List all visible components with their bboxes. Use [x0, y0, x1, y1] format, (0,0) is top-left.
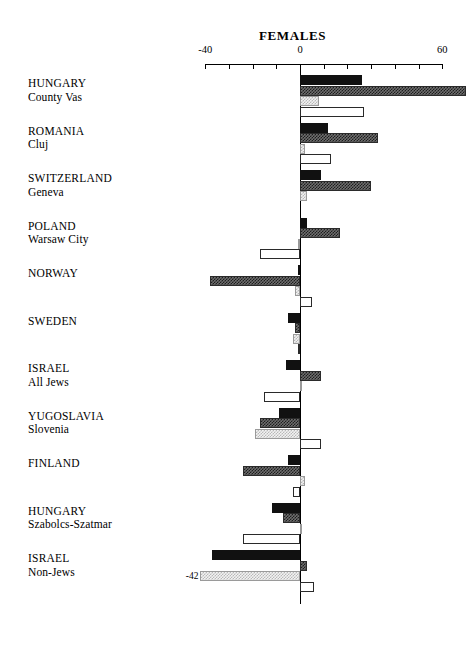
bar-dark	[300, 371, 321, 381]
category-label-line2: Warsaw City	[28, 233, 89, 247]
bar-light	[300, 144, 305, 154]
bar-white	[260, 249, 300, 259]
bar-solid	[300, 170, 321, 180]
x-axis-tick-label: 0	[297, 44, 302, 55]
bar-white	[300, 154, 331, 164]
x-axis-tick-label: -40	[198, 44, 212, 55]
bar-light	[293, 334, 300, 344]
x-axis-tick-label: 60	[437, 44, 448, 55]
category-label: HUNGARYCounty Vas	[28, 77, 86, 104]
category-label-line1: ISRAEL	[28, 552, 75, 566]
bar-solid	[300, 75, 362, 85]
bar-dark	[300, 133, 378, 143]
bar-group: FINLAND	[0, 455, 467, 503]
category-label: ISRAELNon-Jews	[28, 552, 75, 579]
bar-white	[300, 439, 321, 449]
category-label-line2: Cluj	[28, 138, 84, 152]
bar-dark	[300, 181, 371, 191]
category-label-line1: NORWAY	[28, 267, 78, 281]
bar-dark: 70	[300, 86, 466, 96]
bar-dark	[243, 466, 300, 476]
bar-light	[298, 239, 300, 249]
bar-light: -42	[200, 571, 300, 581]
x-axis-tick	[300, 64, 301, 69]
bar-group: NORWAY	[0, 265, 467, 313]
bar-group: SWITZERLANDGeneva	[0, 170, 467, 218]
bar-dark	[295, 323, 300, 333]
bar-value-label: -42	[186, 571, 199, 581]
category-label-line2: Geneva	[28, 186, 112, 200]
bar-light	[300, 191, 307, 201]
bar-white	[264, 392, 300, 402]
bar-group: ROMANIACluj	[0, 123, 467, 171]
bar-group: ISRAELAll Jews	[0, 360, 467, 408]
x-axis-tick	[229, 64, 230, 69]
x-axis-tick	[395, 64, 396, 69]
x-axis-tick	[253, 64, 254, 69]
category-label: POLANDWarsaw City	[28, 220, 89, 247]
bar-dark	[300, 561, 307, 571]
bar-white	[243, 534, 300, 544]
bar-group: SWEDEN	[0, 313, 467, 361]
category-label: SWEDEN	[28, 315, 77, 329]
bar-white	[300, 582, 314, 592]
bar-group: YUGOSLAVIASlovenia	[0, 408, 467, 456]
bar-light	[300, 524, 302, 534]
bar-light	[300, 381, 302, 391]
bar-group: ISRAELNon-Jews-42	[0, 550, 467, 598]
bar-dark	[210, 276, 300, 286]
bar-white	[293, 487, 300, 497]
category-label: YUGOSLAVIASlovenia	[28, 410, 104, 437]
bar-light	[300, 96, 319, 106]
x-axis-tick	[205, 64, 206, 69]
x-axis-tick	[419, 64, 420, 69]
bar-light	[295, 286, 300, 296]
category-label: SWITZERLANDGeneva	[28, 172, 112, 199]
category-label: ISRAELAll Jews	[28, 362, 69, 389]
bar-light	[255, 429, 300, 439]
bar-solid	[300, 218, 307, 228]
bar-solid	[288, 455, 300, 465]
category-label-line1: HUNGARY	[28, 77, 86, 91]
category-label-line1: ROMANIA	[28, 125, 84, 139]
bar-light	[300, 476, 305, 486]
plot-area: -40060 HUNGARYCounty Vas70ROMANIAClujSWI…	[0, 0, 467, 645]
category-label: FINLAND	[28, 457, 80, 471]
bar-dark	[300, 228, 340, 238]
category-label: ROMANIACluj	[28, 125, 84, 152]
bar-white	[300, 297, 312, 307]
bar-solid	[286, 360, 300, 370]
category-label-line1: ISRAEL	[28, 362, 69, 376]
x-axis-tick	[442, 64, 443, 69]
category-label-line1: POLAND	[28, 220, 89, 234]
x-axis-tick	[276, 64, 277, 69]
bar-white	[300, 107, 364, 117]
bar-group: HUNGARYCounty Vas70	[0, 75, 467, 123]
category-label-line1: YUGOSLAVIA	[28, 410, 104, 424]
bar-solid	[288, 313, 300, 323]
bar-dark	[283, 513, 300, 523]
category-label: NORWAY	[28, 267, 78, 281]
x-axis-tick	[324, 64, 325, 69]
bar-solid	[212, 550, 300, 560]
category-label-line2: County Vas	[28, 91, 86, 105]
x-axis-tick	[371, 64, 372, 69]
bar-solid	[300, 123, 328, 133]
bar-group: POLANDWarsaw City	[0, 218, 467, 266]
bar-dark	[260, 418, 300, 428]
category-label-line1: HUNGARY	[28, 505, 112, 519]
bar-white	[298, 344, 300, 354]
category-label-line2: Slovenia	[28, 423, 104, 437]
bar-solid	[272, 503, 300, 513]
category-label-line1: FINLAND	[28, 457, 80, 471]
bar-group: HUNGARYSzabolcs-Szatmar	[0, 503, 467, 551]
category-label: HUNGARYSzabolcs-Szatmar	[28, 505, 112, 532]
chart-root: FEMALES -40060 HUNGARYCounty Vas70ROMANI…	[0, 0, 467, 645]
category-label-line2: All Jews	[28, 376, 69, 390]
category-label-line2: Non-Jews	[28, 566, 75, 580]
category-label-line1: SWEDEN	[28, 315, 77, 329]
category-label-line1: SWITZERLAND	[28, 172, 112, 186]
category-label-line2: Szabolcs-Szatmar	[28, 518, 112, 532]
x-axis-tick	[347, 64, 348, 69]
bar-solid	[298, 265, 300, 275]
